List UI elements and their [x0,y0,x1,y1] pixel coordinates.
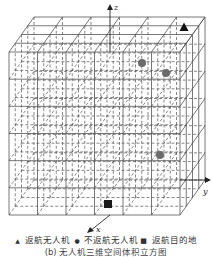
hidden-depth-line [9,44,34,79]
circle-icon: ● [74,237,79,244]
y-axis-arrowhead [205,177,211,183]
square-icon: ■ [140,237,147,245]
circle-marker-icon [162,69,170,77]
square-marker-icon [104,200,112,208]
circle-marker-icon [156,151,164,159]
legend: ▲ 返航无人机 ● 不返航无人机■ 返航目的地 [0,233,212,245]
y-axis-label: y [202,187,208,196]
triangle-marker-icon [180,23,189,32]
legend-return-destination: 返航目的地 [152,235,197,245]
triangle-icon: ▲ [15,237,20,244]
figure-caption: (b) 无人机三维空间体积立方图 [0,245,212,257]
z-axis-arrowhead [107,4,113,10]
hidden-grid-lines [9,17,205,215]
circle-marker-icon [138,59,146,67]
hidden-depth-line [9,153,34,188]
legend-non-returning-drone: 不返航无人机 [84,235,138,245]
legend-returning-drone: 返航无人机 [25,235,70,245]
hidden-depth-line [9,99,34,134]
z-axis-label: z [113,3,119,12]
